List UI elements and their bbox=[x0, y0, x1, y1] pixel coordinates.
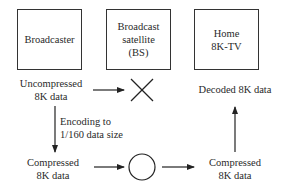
x-mark-icon bbox=[131, 79, 153, 101]
diagram-arrows bbox=[0, 0, 284, 187]
circle-mark-icon bbox=[129, 154, 155, 180]
